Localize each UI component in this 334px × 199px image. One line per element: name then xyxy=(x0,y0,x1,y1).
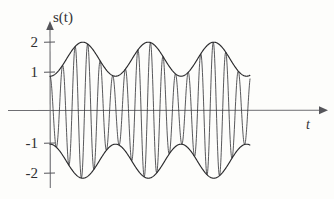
x-axis-arrow-icon xyxy=(319,106,328,114)
y-tick-label-1: 1 xyxy=(16,65,38,80)
y-axis-label: s(t) xyxy=(53,10,73,25)
x-axis xyxy=(8,106,328,114)
y-tick-label-minus-2: -2 xyxy=(11,166,38,181)
plot-canvas xyxy=(0,0,334,199)
y-tick-label-2: 2 xyxy=(16,35,38,50)
am-signal-figure: s(t) t 2 1 -1 -2 xyxy=(0,0,334,199)
x-axis-label: t xyxy=(306,118,310,132)
y-tick-label-minus-1: -1 xyxy=(11,136,38,151)
